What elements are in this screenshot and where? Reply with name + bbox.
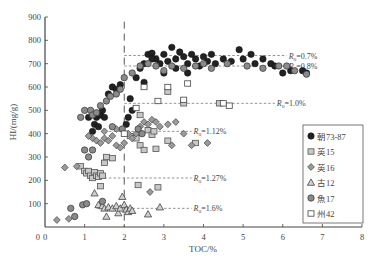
- circle-marker: [280, 70, 286, 76]
- circle-marker: [173, 56, 179, 62]
- legend-label: 古12: [317, 178, 335, 188]
- circle-marker: [137, 63, 143, 69]
- x-tick-label: 7: [320, 232, 324, 242]
- circle-marker: [125, 114, 131, 120]
- circle-marker: [260, 65, 266, 71]
- square-open-marker: [185, 81, 191, 86]
- circle-marker: [81, 107, 87, 113]
- circle-marker: [248, 51, 254, 57]
- circle-marker: [192, 63, 198, 69]
- y-tick-label: 800: [28, 35, 41, 45]
- square-marker: [97, 183, 103, 188]
- circle-marker: [244, 63, 250, 69]
- legend-label: 朝73-87: [317, 132, 346, 142]
- square-open-marker: [226, 103, 232, 108]
- ro-label: Ro=1.27%: [193, 174, 227, 184]
- circle-marker: [97, 102, 103, 108]
- scatter-chart: Ro=0.7%Ro=0.8%Ro=1.0%Ro=1.12%Ro=1.27%Ro=…: [0, 0, 373, 264]
- triangle-marker: [103, 213, 110, 219]
- circle-marker: [291, 67, 297, 73]
- triangle-marker: [144, 211, 151, 217]
- circle-marker: [89, 128, 95, 134]
- circle-marker: [129, 70, 135, 76]
- origin-label: 0: [36, 232, 40, 242]
- triangle-marker: [119, 193, 126, 199]
- legend-label: 州42: [317, 209, 335, 219]
- circle-marker: [145, 60, 151, 66]
- y-axis-label: HI/(mg/g): [8, 104, 18, 141]
- legend: 朝73-87英15英16古12魚17州42: [303, 125, 363, 223]
- diamond-marker: [101, 128, 108, 135]
- x-tick-label: 3: [162, 232, 166, 242]
- square-marker: [151, 129, 157, 134]
- circle-marker: [127, 95, 133, 101]
- circle-marker: [117, 86, 123, 92]
- y-tick-label: 400: [28, 129, 41, 139]
- circle-marker: [169, 44, 175, 50]
- square-marker: [103, 154, 109, 159]
- legend-label: 魚17: [317, 194, 335, 204]
- diamond-marker: [147, 189, 154, 196]
- x-tick-label: 8: [360, 232, 364, 242]
- triangle-marker: [91, 190, 98, 196]
- square-open-marker: [220, 101, 226, 106]
- circle-marker: [89, 147, 95, 153]
- square-open-marker: [181, 97, 187, 102]
- circle-marker: [284, 63, 290, 69]
- legend-label: 英16: [317, 163, 335, 173]
- diamond-marker: [65, 215, 72, 222]
- square-marker: [135, 182, 141, 187]
- square-open-marker: [133, 105, 139, 110]
- circle-marker: [208, 51, 214, 57]
- circle-marker: [236, 46, 242, 52]
- circle-marker: [149, 50, 155, 56]
- circle-marker: [139, 130, 145, 136]
- circle-marker: [200, 60, 206, 66]
- circle-marker: [192, 56, 198, 62]
- circle-marker: [109, 123, 115, 129]
- square-open-marker: [165, 84, 171, 89]
- circle-marker: [161, 51, 167, 57]
- x-tick-label: 5: [241, 232, 245, 242]
- ro-label: Ro=1.12%: [193, 127, 227, 137]
- circle-marker: [260, 56, 266, 62]
- circle-marker: [121, 74, 127, 80]
- circle-marker: [101, 114, 107, 120]
- circle-marker: [68, 205, 74, 211]
- y-tick-label: 200: [28, 175, 41, 185]
- circle-marker: [95, 123, 101, 129]
- circle-marker: [180, 65, 186, 71]
- diamond-marker: [204, 140, 211, 147]
- ro-label: Ro=1.6%: [193, 204, 223, 214]
- x-tick-label: 2: [122, 232, 126, 242]
- square-open-marker: [155, 98, 161, 103]
- ro-label: Ro=1.0%: [276, 99, 306, 109]
- circle-marker: [83, 200, 89, 206]
- y-tick-label: 300: [28, 152, 41, 162]
- y-tick-label: 700: [28, 59, 41, 69]
- circle-marker: [252, 60, 258, 66]
- square-marker: [99, 173, 105, 178]
- square-open-marker: [141, 84, 147, 89]
- square-marker: [109, 155, 115, 160]
- circle-marker: [180, 53, 186, 59]
- square-marker: [153, 146, 159, 151]
- square-marker: [165, 138, 171, 143]
- circle-marker: [93, 109, 99, 115]
- square-marker: [101, 160, 107, 165]
- y-tick-label: 500: [28, 105, 41, 115]
- diamond-marker: [172, 119, 179, 126]
- data-points: [53, 44, 309, 223]
- x-tick-label: 6: [281, 232, 285, 242]
- x-tick-label: 4: [201, 232, 206, 242]
- square-marker: [308, 149, 314, 154]
- x-tick-label: 0: [43, 232, 47, 242]
- x-tick-label: 1: [83, 232, 87, 242]
- triangle-marker: [156, 204, 163, 210]
- circle-marker: [85, 154, 91, 160]
- diamond-marker: [53, 217, 60, 224]
- x-axis-label: TOC/%: [189, 244, 217, 254]
- diamond-marker: [61, 164, 68, 171]
- square-open-marker: [308, 211, 314, 216]
- circle-marker: [72, 213, 78, 219]
